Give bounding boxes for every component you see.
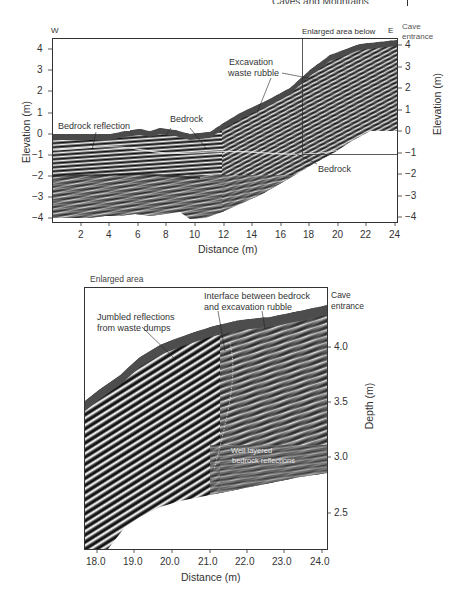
bottom-y-axis-title: Depth (m): [363, 371, 375, 441]
ytick-right: 4: [405, 40, 411, 50]
bottom-x-axis-title: Distance (m): [181, 571, 241, 583]
ytick: 4.0: [334, 342, 348, 352]
xtick: 22.0: [235, 557, 254, 567]
ytick-right: 1: [405, 105, 411, 115]
xtick: 24: [389, 230, 400, 240]
ytick: 2.5: [334, 508, 348, 518]
ytick-left: −3: [32, 192, 43, 202]
xtick: 18.0: [86, 557, 105, 567]
xtick: 23.0: [272, 557, 291, 567]
xtick: 22: [360, 230, 371, 240]
ytick-left: 1: [37, 108, 43, 118]
ytick-left: −2: [32, 171, 43, 181]
ytick-right: −3: [405, 191, 416, 201]
xtick: 21.0: [198, 557, 217, 567]
ytick-right: 0: [405, 126, 411, 136]
ytick-left: 0: [37, 129, 43, 139]
ytick-right: −4: [405, 212, 416, 222]
top-y-axis-title-left: Elevation (m): [20, 92, 32, 172]
ytick: 3.5: [334, 397, 348, 407]
xtick: 12: [218, 230, 229, 240]
annotation-interface-2: and excavation rubble: [204, 303, 292, 312]
xtick: 19.0: [123, 557, 142, 567]
ytick-left: 3: [37, 65, 43, 75]
xtick: 18: [303, 230, 314, 240]
top-x-axis-title: Distance (m): [198, 243, 258, 255]
enlarged-radargram: [0, 265, 458, 602]
ytick-right: 2: [405, 83, 411, 93]
annotation-excavation-1: Excavation: [229, 58, 273, 67]
annotation-jumbled-1: Jumbled reflections: [97, 313, 175, 322]
ytick-right: −1: [405, 148, 416, 158]
ytick-right: −2: [405, 169, 416, 179]
xtick: 2: [78, 230, 84, 240]
annotation-bedrock-1: Bedrock: [170, 115, 203, 124]
enlarged-gpr-figure: Enlarged area Cave entrance: [0, 265, 458, 602]
xtick: 8: [163, 230, 169, 240]
top-gpr-figure: W E Enlarged area below Cave entrance: [0, 0, 458, 265]
ytick-left: −1: [32, 150, 43, 160]
annotation-interface-1: Interface between bedrock: [204, 292, 310, 301]
annotation-bedrock-reflection: Bedrock reflection: [58, 122, 130, 131]
xtick: 16: [275, 230, 286, 240]
top-y-axis-title-right: Elevation (m): [431, 64, 443, 144]
ytick-right: 3: [405, 62, 411, 72]
annotation-jumbled-2: from waste dumps: [97, 324, 171, 333]
xtick: 20.0: [160, 557, 179, 567]
xtick: 10: [189, 230, 200, 240]
annotation-well-layered-1: Well layered: [231, 447, 272, 455]
ytick-left: 2: [37, 86, 43, 96]
annotation-excavation-2: waste rubble: [228, 69, 279, 78]
xtick: 6: [135, 230, 141, 240]
annotation-well-layered-2: bedrock reflections: [232, 457, 295, 465]
ytick-left: 4: [37, 44, 43, 54]
xtick: 24.0: [310, 557, 329, 567]
xtick: 20: [332, 230, 343, 240]
xtick: 14: [246, 230, 257, 240]
xtick: 4: [106, 230, 112, 240]
ytick: 3.0: [334, 452, 348, 462]
top-radargram: [0, 0, 458, 265]
ytick-left: −4: [32, 213, 43, 223]
annotation-bedrock-2: Bedrock: [318, 165, 351, 174]
